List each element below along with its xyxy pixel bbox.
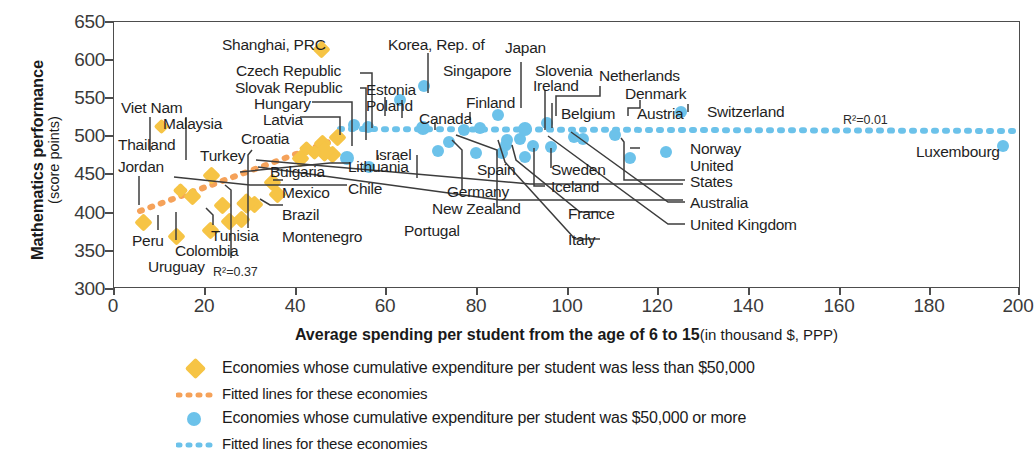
label-new-zealand: New Zealand bbox=[432, 200, 521, 218]
label-peru: Peru bbox=[132, 232, 164, 250]
x-tick-mark bbox=[1018, 288, 1020, 295]
point-thailand[interactable] bbox=[175, 185, 186, 196]
point-brazil[interactable] bbox=[235, 213, 248, 226]
label-montenegro: Montenegro bbox=[282, 228, 362, 246]
label-united-states-2: States bbox=[690, 173, 732, 191]
point-poland[interactable] bbox=[362, 121, 374, 133]
x-tick-40: 40 bbox=[265, 295, 325, 317]
y-axis-title-line1: Mathematics performance bbox=[29, 15, 47, 305]
label-portugal: Portugal bbox=[404, 222, 460, 240]
label-japan: Japan bbox=[505, 39, 546, 57]
legend-item-fit-high: Fitted lines for these economies bbox=[160, 433, 1020, 458]
legend-item-fit-low: Fitted lines for these economies bbox=[160, 383, 1020, 408]
label-sweden: Sweden bbox=[551, 161, 606, 179]
label-canada: Canada bbox=[419, 110, 472, 128]
label-latvia: Latvia bbox=[263, 111, 303, 129]
legend-item-high-spend: Economies whose cumulative expenditure p… bbox=[160, 408, 1020, 433]
label-germany: Germany bbox=[447, 183, 509, 201]
x-tick-mark bbox=[113, 288, 115, 295]
y-tick-400: 400 bbox=[53, 202, 105, 224]
y-tick-500: 500 bbox=[53, 125, 105, 147]
label-israel: Israel bbox=[375, 146, 411, 164]
point-united-states[interactable] bbox=[624, 152, 636, 164]
y-tick-550: 550 bbox=[53, 87, 105, 109]
label-spain: Spain bbox=[477, 161, 515, 179]
point-czech-republic[interactable] bbox=[331, 131, 344, 144]
point-mexico[interactable] bbox=[239, 196, 254, 211]
point-uruguay[interactable] bbox=[216, 199, 229, 212]
y-tick-mark bbox=[105, 21, 113, 23]
point-spain[interactable] bbox=[470, 147, 482, 159]
y-tick-mark bbox=[105, 135, 113, 137]
point-italy[interactable] bbox=[496, 147, 508, 159]
x-tick-mark bbox=[476, 288, 478, 295]
y-tick-350: 350 bbox=[53, 240, 105, 262]
point-singapore[interactable] bbox=[418, 80, 430, 92]
label-mexico: Mexico bbox=[282, 184, 330, 202]
r2-high-spend: R²=0.01 bbox=[843, 113, 888, 127]
label-singapore: Singapore bbox=[443, 62, 511, 80]
point-netherlands[interactable] bbox=[541, 117, 553, 129]
point-iceland[interactable] bbox=[527, 140, 539, 152]
label-jordan: Jordan bbox=[118, 158, 164, 176]
label-turkey: Turkey bbox=[200, 147, 245, 165]
chart-figure: Mathematics performance (score points) 6… bbox=[0, 0, 1035, 462]
x-tick-100: 100 bbox=[537, 295, 597, 317]
legend-label-fit-low: Fitted lines for these economies bbox=[222, 385, 427, 402]
label-shanghai: Shanghai, PRC bbox=[222, 36, 326, 54]
y-tick-650: 650 bbox=[53, 11, 105, 33]
x-tick-140: 140 bbox=[718, 295, 778, 317]
point-estonia[interactable] bbox=[348, 119, 360, 131]
label-iceland: Iceland bbox=[551, 178, 599, 196]
x-axis-title-main: Average spending per student from the ag… bbox=[295, 326, 700, 343]
label-thailand: Thailand bbox=[118, 136, 175, 154]
label-austria: Austria bbox=[637, 105, 684, 123]
label-netherlands: Netherlands bbox=[599, 67, 680, 85]
label-uruguay: Uruguay bbox=[148, 258, 205, 276]
y-tick-mark bbox=[105, 288, 113, 290]
x-tick-mark bbox=[567, 288, 569, 295]
point-australia[interactable] bbox=[568, 131, 580, 143]
label-croatia: Croatia bbox=[241, 130, 289, 148]
chart-legend: Economies whose cumulative expenditure p… bbox=[160, 358, 1020, 458]
label-united-kingdom: United Kingdom bbox=[690, 216, 797, 234]
y-tick-mark bbox=[105, 97, 113, 99]
x-axis-title-unit: (in thousand $, PPP) bbox=[700, 326, 838, 343]
label-belgium: Belgium bbox=[561, 105, 615, 123]
y-tick-450: 450 bbox=[53, 163, 105, 185]
point-turkey[interactable] bbox=[205, 169, 218, 182]
label-czech: Czech Republic bbox=[236, 62, 341, 80]
point-extra-yellow-2[interactable] bbox=[301, 143, 312, 154]
label-denmark: Denmark bbox=[625, 85, 686, 103]
x-tick-200: 200 bbox=[988, 295, 1035, 317]
label-bulgaria: Bulgaria bbox=[270, 163, 325, 181]
point-new-zealand[interactable] bbox=[443, 136, 455, 148]
point-finland[interactable] bbox=[474, 122, 486, 134]
y-tick-600: 600 bbox=[53, 49, 105, 71]
point-jordan[interactable] bbox=[137, 216, 150, 229]
x-tick-60: 60 bbox=[355, 295, 415, 317]
y-tick-mark bbox=[105, 250, 113, 252]
x-tick-mark bbox=[657, 288, 659, 295]
label-tunisia: Tunisia bbox=[211, 227, 259, 245]
point-united-kingdom[interactable] bbox=[545, 141, 557, 153]
r2-low-spend: R²=0.37 bbox=[213, 265, 258, 279]
x-tick-180: 180 bbox=[899, 295, 959, 317]
x-tick-80: 80 bbox=[446, 295, 506, 317]
point-belgium[interactable] bbox=[518, 122, 532, 136]
point-malaysia[interactable] bbox=[186, 190, 199, 203]
y-tick-mark bbox=[105, 59, 113, 61]
diamond-icon bbox=[188, 361, 203, 376]
x-tick-mark bbox=[929, 288, 931, 295]
circle-icon bbox=[187, 412, 201, 426]
legend-item-low-spend: Economies whose cumulative expenditure p… bbox=[160, 358, 1020, 383]
x-tick-mark bbox=[204, 288, 206, 295]
label-chile: Chile bbox=[348, 180, 382, 198]
label-france: France bbox=[568, 205, 615, 223]
label-luxembourg: Luxembourg bbox=[916, 143, 1000, 161]
point-sweden[interactable] bbox=[519, 151, 531, 163]
x-tick-mark bbox=[295, 288, 297, 295]
x-tick-160: 160 bbox=[809, 295, 869, 317]
point-norway[interactable] bbox=[660, 146, 672, 158]
point-austria[interactable] bbox=[609, 129, 621, 141]
